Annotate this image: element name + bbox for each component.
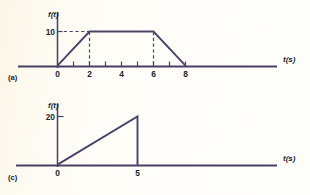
- panel-a-waveform: [58, 32, 186, 66]
- figure-container: 10 f(t) t(s) 0 2 4 6 8 (a) 20 f(t): [0, 0, 310, 195]
- panel-c-waveform: [58, 117, 138, 165]
- panel-c-x-axis-title: t(s): [283, 154, 296, 163]
- panel-a-x-tick-label-0: 0: [55, 69, 60, 79]
- panel-a-y-axis-title: f(t): [48, 10, 59, 19]
- panel-c-caption: (c): [8, 173, 18, 182]
- panel-a-x-tick-label-6: 6: [151, 69, 156, 79]
- panel-c-y-axis-title: f(t): [48, 101, 59, 110]
- panel-a-x-axis-title: t(s): [283, 55, 296, 64]
- panel-a-y-tick-label-10: 10: [46, 27, 56, 37]
- panel-a-x-tick-label-8: 8: [183, 69, 188, 79]
- panel-a-x-tick-label-2: 2: [87, 69, 92, 79]
- panel-c-x-tick-label-5: 5: [135, 168, 140, 178]
- panel-c-x-tick-label-0: 0: [55, 168, 60, 178]
- panel-c-y-tick-label-20: 20: [46, 112, 56, 122]
- panel-a-x-tick-label-4: 4: [119, 69, 124, 79]
- panel-a-caption: (a): [8, 73, 18, 82]
- panel-a: 10 f(t) t(s) 0 2 4 6 8 (a): [8, 10, 296, 82]
- figure-svg: 10 f(t) t(s) 0 2 4 6 8 (a) 20 f(t): [0, 0, 310, 195]
- panel-c: 20 f(t) t(s) 0 5 (c): [8, 101, 296, 182]
